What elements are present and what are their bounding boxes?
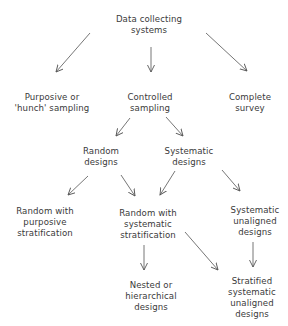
edge-random-randpurp: [68, 176, 88, 195]
node-stratified-systematic-unaligned-designs: Stratified systematic unaligned designs: [228, 276, 276, 320]
edge-randsys-stratunal: [185, 232, 218, 270]
edge-root-purposive: [56, 33, 90, 72]
node-random-purposive-stratification: Random with purposive stratification: [16, 206, 74, 239]
node-complete-survey: Complete survey: [229, 92, 271, 114]
node-purposive-sampling: Purposive or 'hunch' sampling: [15, 92, 90, 114]
edge-random-randsys: [121, 175, 135, 196]
node-random-systematic-stratification: Random with systematic stratification: [119, 208, 177, 241]
node-data-collecting-systems: Data collecting systems: [116, 14, 182, 36]
node-controlled-sampling: Controlled sampling: [127, 92, 172, 114]
edge-systematic-sysunal: [222, 170, 240, 191]
edge-root-complete: [206, 33, 247, 71]
node-systematic-unaligned-designs: Systematic unaligned designs: [231, 205, 280, 238]
node-random-designs: Random designs: [83, 146, 119, 168]
node-systematic-designs: Systematic designs: [165, 146, 214, 168]
edge-controlled-random: [116, 118, 130, 136]
diagram-canvas: Data collecting systems Purposive or 'hu…: [0, 0, 288, 326]
node-nested-hierarchical-designs: Nested or hierarchical designs: [125, 280, 176, 313]
edge-systematic-randsys: [160, 171, 175, 195]
edge-controlled-systematic: [166, 117, 183, 136]
